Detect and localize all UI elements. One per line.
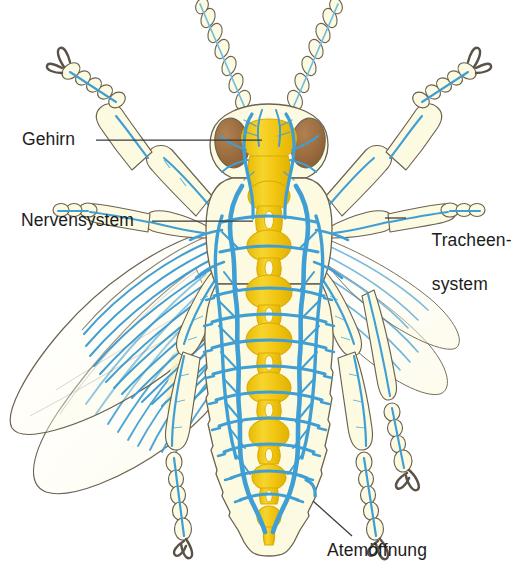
ganglion <box>247 372 291 404</box>
antenna-right <box>285 0 345 112</box>
leg-fore-right <box>326 48 491 216</box>
label-tracheensystem-line2: system <box>432 274 488 294</box>
label-tracheensystem-line1: Tracheen- <box>432 230 512 250</box>
antenna-left <box>193 0 253 112</box>
label-atemoeffnung: Atemöffnung <box>327 540 427 561</box>
brain <box>241 119 296 158</box>
label-tracheensystem: Tracheen- system <box>412 207 512 317</box>
antennae-group <box>193 0 344 112</box>
ganglion <box>252 464 286 490</box>
spiracle-leader <box>313 501 352 536</box>
label-gehirn: Gehirn <box>22 129 75 150</box>
label-nervensystem: Nervensystem <box>21 210 134 231</box>
ganglion <box>246 275 292 309</box>
